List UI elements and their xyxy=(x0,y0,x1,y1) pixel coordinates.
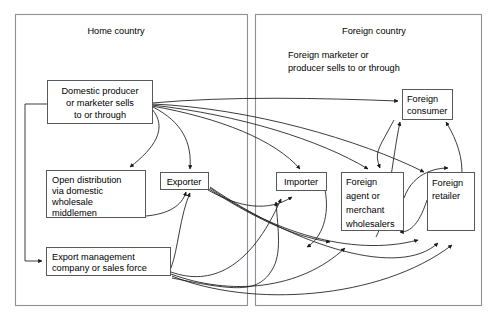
channel-distribution-diagram: Home country Foreign country Foreign mar… xyxy=(0,0,493,323)
flow-producer-to-export-management xyxy=(25,104,47,261)
open-distribution-line3: wholesale xyxy=(51,197,93,207)
open-distribution-line1: Open distribution xyxy=(52,175,121,185)
node-open-distribution[interactable]: Open distribution via domestic wholesale… xyxy=(47,171,146,219)
flow-export-management-to-foreign-agent xyxy=(171,248,345,287)
node-foreign-retailer[interactable]: Foreign retailer xyxy=(428,173,475,231)
flow-export-management-to-importer-alt xyxy=(172,202,279,288)
exporter-label: Exporter xyxy=(167,177,202,187)
node-domestic-producer[interactable]: Domestic producer or marketer sells to o… xyxy=(48,81,153,124)
flow-foreign-retailer-to-foreign-consumer xyxy=(446,122,462,172)
node-importer[interactable]: Importer xyxy=(277,173,327,191)
foreign-agent-line4: wholesalers xyxy=(345,219,395,229)
domestic-producer-line2: or marketer sells xyxy=(66,98,134,108)
node-foreign-consumer[interactable]: Foreign consumer xyxy=(403,90,453,120)
open-distribution-line2: via domestic xyxy=(52,186,103,196)
domestic-producer-line1: Domestic producer xyxy=(61,86,138,96)
flow-foreign-retailer-to-foreign-agent xyxy=(400,200,427,232)
node-foreign-agent[interactable]: Foreign agent or merchant wholesalers xyxy=(342,173,404,231)
foreign-marketer-note: Foreign marketer or producer sells to or… xyxy=(288,50,400,73)
foreign-marketer-note-line2: producer sells to or through xyxy=(288,63,400,73)
foreign-marketer-note-line1: Foreign marketer or xyxy=(288,50,369,60)
flow-export-management-to-exporter xyxy=(171,193,190,268)
diagram-canvas: Home country Foreign country Foreign mar… xyxy=(0,0,493,323)
domestic-producer-line3: to or through xyxy=(74,110,126,120)
flow-open-distribution-to-exporter xyxy=(146,192,186,216)
foreign-retailer-line2: retailer xyxy=(432,191,460,201)
home-country-label: Home country xyxy=(87,26,145,36)
node-exporter[interactable]: Exporter xyxy=(161,173,209,190)
flow-producer-to-exporter xyxy=(153,107,190,169)
node-export-management[interactable]: Export management company or sales force xyxy=(47,248,171,276)
export-management-line1: Export management xyxy=(52,252,135,262)
flow-export-management-to-importer xyxy=(171,199,281,277)
foreign-agent-line1: Foreign xyxy=(346,177,377,187)
importer-label: Importer xyxy=(284,177,318,187)
flow-exporter-to-foreign-agent xyxy=(209,189,330,242)
flow-exporter-to-importer xyxy=(208,190,292,206)
foreign-retailer-line1: Foreign xyxy=(432,178,463,188)
flow-producer-to-importer xyxy=(152,106,300,169)
flow-producer-to-foreign-retailer xyxy=(152,104,424,172)
flow-importer-to-foreign-agent xyxy=(307,190,326,247)
foreign-agent-line2: agent or xyxy=(346,191,380,201)
flow-producer-to-foreign-consumer xyxy=(152,98,398,103)
export-management-line2: company or sales force xyxy=(52,263,147,273)
foreign-agent-line3: merchant xyxy=(346,205,385,215)
open-distribution-line4: middlemen xyxy=(52,208,97,218)
foreign-country-label: Foreign country xyxy=(342,26,406,36)
flow-foreign-consumer-to-foreign-agent xyxy=(377,120,394,168)
flow-export-management-to-foreign-retailer xyxy=(172,245,452,295)
foreign-consumer-line2: consumer xyxy=(407,106,447,116)
foreign-consumer-line1: Foreign xyxy=(407,94,438,104)
